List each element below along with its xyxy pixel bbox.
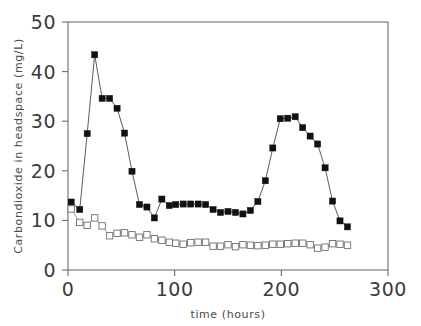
data-point-open-square [225,242,231,248]
data-point-filled-square [173,201,179,207]
data-point-open-square [159,237,165,243]
data-point-filled-square [151,215,157,221]
x-tick-label: 200 [262,278,300,300]
data-point-open-square [314,245,320,251]
data-point-open-square [255,243,261,249]
data-point-filled-square [166,202,172,208]
data-point-filled-square [247,207,253,213]
axis-labels-group: 010020030001020304050time (hours)Carbond… [12,11,407,321]
data-point-filled-square [210,206,216,212]
data-point-filled-square [315,141,321,147]
x-tick-label: 300 [369,278,407,300]
y-tick-label: 30 [31,110,56,132]
data-point-filled-square [114,105,120,111]
data-point-open-square [129,232,135,238]
data-point-open-square [84,222,90,228]
data-point-filled-square [195,201,201,207]
data-point-open-square [144,232,150,238]
data-point-open-square [337,241,343,247]
data-point-filled-square [322,165,328,171]
data-series-group [68,52,351,252]
data-point-filled-square [292,114,298,120]
data-point-open-square [151,236,157,242]
chart-plot-area: 010020030001020304050time (hours)Carbond… [0,0,421,326]
data-point-filled-square [307,133,313,139]
data-point-open-square [292,240,298,246]
data-point-filled-square [203,201,209,207]
data-point-open-square [247,242,253,248]
data-point-open-square [299,240,305,246]
data-point-filled-square [300,125,306,131]
data-point-open-square [121,230,127,236]
series-line-filled-square-series [71,55,347,227]
data-point-filled-square [159,196,165,202]
data-point-open-square [114,230,120,236]
data-point-open-square [232,243,238,249]
data-point-filled-square [84,131,90,137]
data-point-filled-square [270,145,276,151]
x-tick-label: 0 [62,278,75,300]
x-axis-title: time (hours) [190,308,265,321]
data-point-filled-square [225,208,231,214]
data-point-filled-square [255,198,261,204]
data-point-open-square [77,219,83,225]
data-point-filled-square [68,199,74,205]
x-tick-label: 100 [156,278,194,300]
y-tick-label: 10 [31,209,56,231]
data-point-filled-square [329,198,335,204]
data-point-filled-square [285,115,291,121]
data-point-filled-square [240,211,246,217]
data-point-open-square [166,239,172,245]
data-point-filled-square [136,201,142,207]
data-point-filled-square [180,201,186,207]
data-point-open-square [344,242,350,248]
data-point-open-square [180,241,186,247]
chart-figure: 010020030001020304050time (hours)Carbond… [0,0,421,326]
data-point-open-square [136,234,142,240]
y-tick-label: 50 [31,11,56,33]
data-point-filled-square [77,206,83,212]
data-point-filled-square [217,209,223,215]
data-point-open-square [285,241,291,247]
data-point-filled-square [277,116,283,122]
data-point-open-square [262,242,268,248]
data-point-open-square [68,206,74,212]
data-point-open-square [210,243,216,249]
data-point-filled-square [188,201,194,207]
data-point-open-square [322,244,328,250]
data-point-open-square [106,233,112,239]
y-axis-title: Carbondioxide in headspace (mg/L) [12,38,25,254]
data-point-filled-square [129,168,135,174]
data-point-filled-square [121,130,127,136]
y-tick-label: 20 [31,160,56,182]
data-point-open-square [217,243,223,249]
data-point-open-square [195,239,201,245]
data-point-filled-square [232,209,238,215]
data-point-open-square [173,240,179,246]
data-point-filled-square [99,95,105,101]
data-point-open-square [270,241,276,247]
data-point-open-square [240,242,246,248]
y-tick-label: 0 [43,259,56,281]
y-tick-label: 40 [31,61,56,83]
data-point-filled-square [92,52,98,58]
data-point-open-square [277,241,283,247]
data-point-open-square [99,223,105,229]
data-point-open-square [329,241,335,247]
data-point-open-square [187,240,193,246]
data-point-filled-square [144,204,150,210]
data-point-open-square [307,242,313,248]
data-point-open-square [202,239,208,245]
data-point-open-square [91,215,97,221]
data-point-filled-square [107,95,113,101]
data-point-filled-square [344,224,350,230]
data-point-filled-square [337,218,343,224]
data-point-filled-square [262,178,268,184]
